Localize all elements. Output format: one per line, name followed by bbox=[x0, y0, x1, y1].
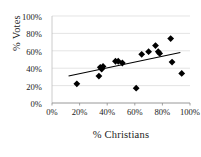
data-point bbox=[96, 73, 103, 80]
data-point bbox=[145, 48, 152, 55]
data-point bbox=[152, 42, 159, 49]
data-point bbox=[178, 70, 185, 77]
plot-canvas bbox=[0, 0, 201, 157]
data-point bbox=[138, 51, 145, 58]
data-point bbox=[169, 59, 176, 66]
scatter-chart: % Votes % Christians 100% 80% 60% 40% 20… bbox=[0, 0, 201, 157]
data-point bbox=[167, 35, 174, 42]
data-point bbox=[73, 80, 80, 87]
